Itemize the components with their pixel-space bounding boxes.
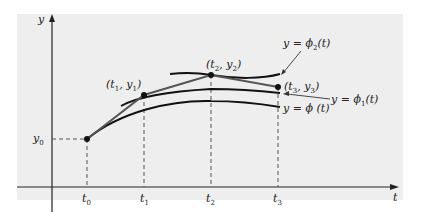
t-axis-label: t [393,191,398,204]
label-phi: y = ϕ (t) [282,102,329,115]
label-t2-y2: (t2, y2) [206,58,241,73]
point-t1-y1 [141,92,147,98]
label-phi2: y = ϕ2(t) [282,37,330,52]
label-t3-y3: (t3, y3) [284,80,319,95]
point-t2-y2 [208,72,214,78]
y-axis-label: y [37,13,45,26]
label-t1-y1: (t1, y1) [106,78,141,93]
euler-method-diagram: y t t0 t1 t2 t3 y0 (t1, y1) (t2, y2) (t3… [0,0,423,221]
label-phi1: y = ϕ1(t) [330,93,378,108]
figure-background [17,14,403,200]
point-t3-y3 [275,84,281,90]
point-t0-y0 [84,136,90,142]
